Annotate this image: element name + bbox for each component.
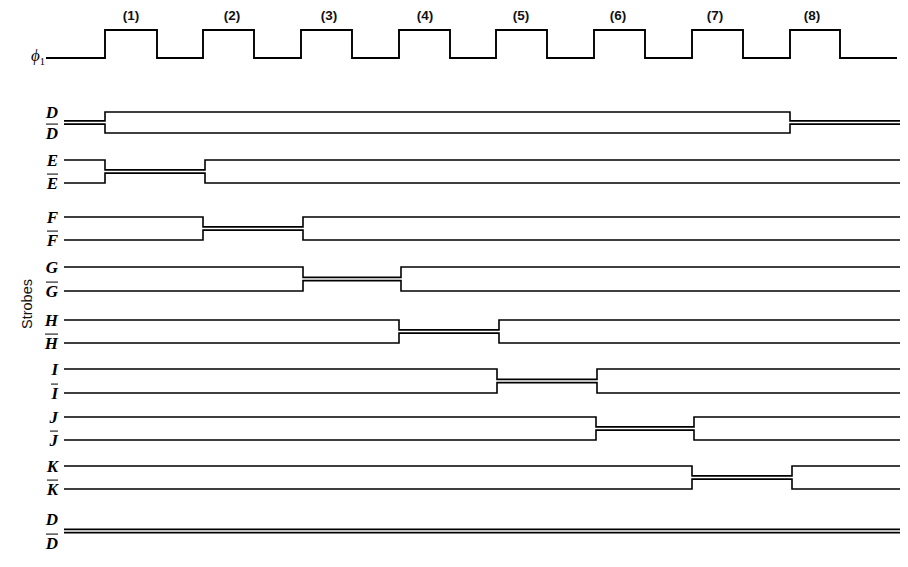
trace-i-comp: [64, 383, 900, 393]
signal-pair-f: [64, 217, 900, 240]
trace-d-true: [64, 112, 900, 121]
trace-h-comp: [64, 333, 900, 343]
signal-pair-k: [64, 466, 900, 489]
trace-g-true: [64, 267, 900, 277]
signal-pair-i: [64, 369, 900, 393]
timing-diagram-figure: Strobes ϕ1 (1)(2)(3)(4)(5)(6)(7)(8)DDEEF…: [0, 0, 908, 567]
waveform-canvas: [0, 0, 908, 567]
trace-d-comp: [64, 124, 900, 133]
trace-f-comp: [64, 230, 900, 240]
trace-e-comp: [64, 173, 900, 183]
trace-f-true: [64, 217, 900, 227]
trace-e-true: [64, 160, 900, 170]
signal-pair-d: [64, 112, 900, 133]
signal-pair-g: [64, 267, 900, 291]
trace-k-comp: [64, 479, 900, 489]
trace-g-comp: [64, 281, 900, 291]
trace-j-true: [64, 417, 900, 427]
signal-pair-d2: [64, 529, 900, 532]
clock-phi1-trace: [46, 30, 897, 58]
trace-k-true: [64, 466, 900, 476]
signal-pair-e: [64, 160, 900, 183]
signal-pair-j: [64, 417, 900, 440]
trace-h-true: [64, 320, 900, 330]
clock-waveform: [46, 30, 897, 58]
signal-pair-h: [64, 320, 900, 343]
trace-i-true: [64, 369, 900, 379]
strobe-waveforms: [64, 112, 900, 533]
trace-j-comp: [64, 430, 900, 440]
